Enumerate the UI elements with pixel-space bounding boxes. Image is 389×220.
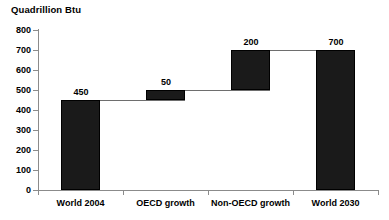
- y-axis-tick-mark: [33, 130, 38, 131]
- bar-value-label: 50: [136, 77, 196, 87]
- x-axis-tick-mark: [208, 190, 209, 195]
- y-axis-tick-label: 500: [16, 86, 31, 95]
- y-axis-tick-label: 0: [26, 186, 31, 195]
- x-axis-tick-mark: [123, 190, 124, 195]
- y-axis-tick-label: 200: [16, 146, 31, 155]
- y-axis-tick-labels: 0100200300400500600700800: [0, 0, 31, 220]
- bar: [61, 100, 100, 190]
- bar: [146, 90, 185, 100]
- y-axis-tick-label: 400: [16, 106, 31, 115]
- y-axis-tick-label: 700: [16, 46, 31, 55]
- y-axis-tick-mark: [33, 90, 38, 91]
- x-axis-category-label: World 2004: [38, 198, 123, 208]
- bar: [231, 50, 270, 90]
- x-axis-category-label: Non-OECD growth: [208, 198, 293, 208]
- x-axis-tick-mark: [38, 190, 39, 195]
- y-axis-tick-label: 100: [16, 166, 31, 175]
- y-axis-tick-mark: [33, 150, 38, 151]
- bar: [316, 50, 355, 190]
- bar-value-label: 200: [221, 37, 281, 47]
- x-axis-category-label: World 2030: [293, 198, 378, 208]
- y-axis-tick-mark: [33, 30, 38, 31]
- y-axis-tick-mark: [33, 70, 38, 71]
- x-axis-tick-mark: [293, 190, 294, 195]
- y-axis-tick-label: 300: [16, 126, 31, 135]
- y-axis-tick-label: 600: [16, 66, 31, 75]
- y-axis-tick-mark: [33, 110, 38, 111]
- y-axis-tick-label: 800: [16, 26, 31, 35]
- y-axis-line: [38, 29, 39, 191]
- bar-value-label: 450: [51, 87, 111, 97]
- x-axis-category-label: OECD growth: [123, 198, 208, 208]
- y-axis-tick-mark: [33, 170, 38, 171]
- bar-value-label: 700: [306, 37, 366, 47]
- x-axis-tick-mark: [378, 190, 379, 195]
- waterfall-chart: Quadrillion Btu 010020030040050060070080…: [0, 0, 389, 220]
- y-axis-tick-mark: [33, 50, 38, 51]
